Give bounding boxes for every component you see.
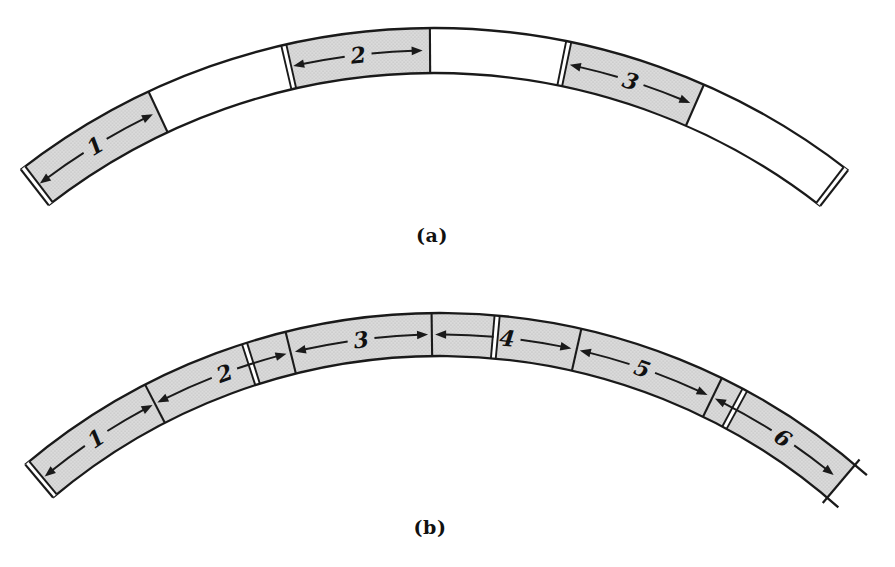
figure-canvas: 123123456 (a) (b) [0,0,895,567]
panel-b: 123456 [25,313,867,507]
panel-a: 123 [21,28,849,206]
caption-panel-a: (a) [416,224,448,246]
divider-single [432,313,433,356]
clone-number-label: 4 [498,324,516,352]
clone-contig-diagram: 123123456 [0,0,895,567]
gap-band-segment [149,45,294,132]
caption-panel-b: (b) [414,516,447,538]
clone-number-label: 2 [348,41,367,69]
gap-band-segment [686,85,848,207]
clone-number-label: 3 [352,326,370,354]
